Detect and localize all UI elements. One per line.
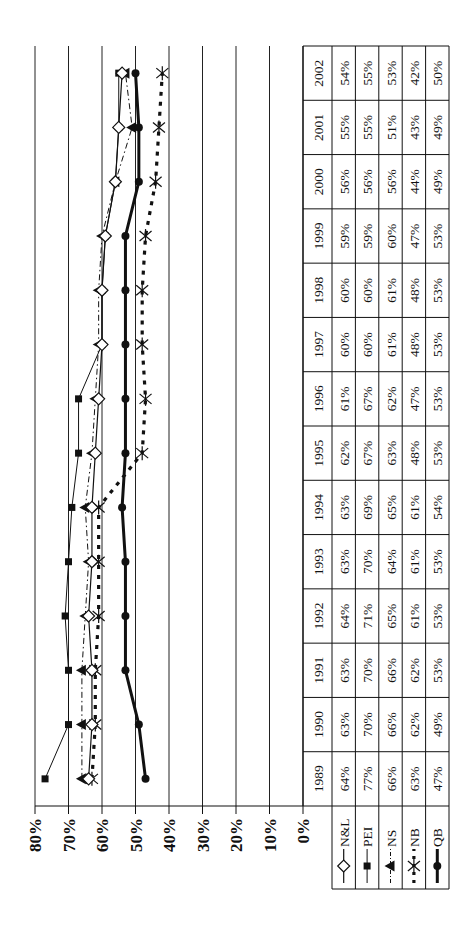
y-tick-label: 60% xyxy=(93,818,112,852)
table-cell: 62% xyxy=(337,441,352,466)
table-cell: 63% xyxy=(337,712,352,737)
table-cell: 60% xyxy=(384,224,399,249)
y-tick-label: 0% xyxy=(294,818,313,844)
year-header: 1994 xyxy=(311,494,326,521)
table-cell: 55% xyxy=(360,115,375,140)
table-cell: 65% xyxy=(384,495,399,520)
table-cell: 49% xyxy=(430,115,445,140)
table-cell: 66% xyxy=(384,712,399,737)
table-cell: 60% xyxy=(360,332,375,357)
table-cell: 53% xyxy=(430,441,445,466)
legend-ns: NS xyxy=(384,830,399,883)
table-cell: 63% xyxy=(337,549,352,574)
year-header: 2000 xyxy=(311,168,326,195)
table-cell: 47% xyxy=(407,224,422,249)
table-cell: 67% xyxy=(360,441,375,466)
year-header: 2002 xyxy=(311,60,326,87)
table-cell: 64% xyxy=(337,604,352,629)
table-cell: 71% xyxy=(360,604,375,629)
legend-n-l: N&L xyxy=(337,819,352,884)
table-cell: 66% xyxy=(384,658,399,683)
table-cell: 60% xyxy=(337,332,352,357)
year-header: 1993 xyxy=(311,548,326,575)
table-cell: 43% xyxy=(407,115,422,140)
table-cell: 53% xyxy=(430,549,445,574)
legend-qb: QB xyxy=(430,828,445,883)
table-cell: 49% xyxy=(430,712,445,737)
table-cell: 67% xyxy=(360,386,375,411)
table-cell: 51% xyxy=(384,115,399,140)
year-header: 1996 xyxy=(311,385,326,412)
table-cell: 48% xyxy=(407,441,422,466)
year-header: 1989 xyxy=(311,765,326,792)
table-cell: 62% xyxy=(384,386,399,411)
table-cell: 59% xyxy=(360,224,375,249)
table-cell: 63% xyxy=(337,495,352,520)
table-cell: 48% xyxy=(407,332,422,357)
table-cell: 53% xyxy=(430,278,445,303)
year-header: 1997 xyxy=(311,331,326,358)
legend-nb: NB xyxy=(407,828,422,883)
table-cell: 70% xyxy=(360,712,375,737)
y-tick-label: 30% xyxy=(194,818,213,852)
year-header: 1990 xyxy=(311,711,326,738)
y-tick-label: 20% xyxy=(227,818,246,852)
y-tick-label: 80% xyxy=(26,818,45,852)
table-cell: 56% xyxy=(360,169,375,194)
table-cell: 62% xyxy=(407,658,422,683)
table-cell: 69% xyxy=(360,495,375,520)
table-cell: 54% xyxy=(337,61,352,86)
table-cell: 61% xyxy=(407,549,422,574)
table-cell: 61% xyxy=(384,278,399,303)
table-cell: 61% xyxy=(337,386,352,411)
year-header: 2001 xyxy=(311,114,326,141)
table-cell: 77% xyxy=(360,766,375,791)
table-cell: 47% xyxy=(430,766,445,791)
table-cell: 54% xyxy=(430,495,445,520)
table-cell: 61% xyxy=(407,604,422,629)
rotated-chart-frame: 0%10%20%30%40%50%60%70%80%19891990199119… xyxy=(0,0,473,941)
table-cell: 44% xyxy=(407,169,422,194)
legend-label: PEI xyxy=(360,826,375,847)
y-tick-label: 10% xyxy=(261,818,280,852)
y-tick-label: 70% xyxy=(60,818,79,852)
table-cell: 64% xyxy=(384,549,399,574)
table-cell: 53% xyxy=(384,61,399,86)
table-cell: 56% xyxy=(384,169,399,194)
y-tick-label: 40% xyxy=(160,818,179,852)
gridlines: 0%10%20%30%40%50%60%70%80% xyxy=(26,46,313,852)
table-cell: 50% xyxy=(430,61,445,86)
table-cell: 61% xyxy=(407,495,422,520)
y-tick-label: 50% xyxy=(127,818,146,852)
table-cell: 53% xyxy=(430,658,445,683)
table-cell: 48% xyxy=(407,278,422,303)
year-header: 1992 xyxy=(311,603,326,630)
legend-label: N&L xyxy=(337,819,352,848)
legend-label: QB xyxy=(430,828,445,847)
table-cell: 55% xyxy=(337,115,352,140)
year-header: 1998 xyxy=(311,277,326,304)
table-cell: 70% xyxy=(360,549,375,574)
table-cell: 64% xyxy=(337,766,352,791)
table-cell: 60% xyxy=(337,278,352,303)
legend-label: NB xyxy=(407,828,422,847)
year-header: 1991 xyxy=(311,657,326,684)
series-qb xyxy=(118,69,149,783)
year-header: 1999 xyxy=(311,222,326,249)
table-cell: 63% xyxy=(337,658,352,683)
table-cell: 55% xyxy=(360,61,375,86)
table-cell: 63% xyxy=(384,441,399,466)
table-cell: 63% xyxy=(407,766,422,791)
table-cell: 62% xyxy=(407,712,422,737)
table-cell: 42% xyxy=(407,61,422,86)
table-cell: 59% xyxy=(337,224,352,249)
table-cell: 66% xyxy=(384,766,399,791)
series-n-l xyxy=(83,67,129,785)
table-cell: 56% xyxy=(337,169,352,194)
table-cell: 53% xyxy=(430,224,445,249)
data-table: 1989199019911992199319941995199619971998… xyxy=(303,46,449,889)
table-cell: 53% xyxy=(430,332,445,357)
legend-pei: PEI xyxy=(360,826,375,883)
table-cell: 53% xyxy=(430,604,445,629)
line-chart: 0%10%20%30%40%50%60%70%80%19891990199119… xyxy=(0,0,473,941)
